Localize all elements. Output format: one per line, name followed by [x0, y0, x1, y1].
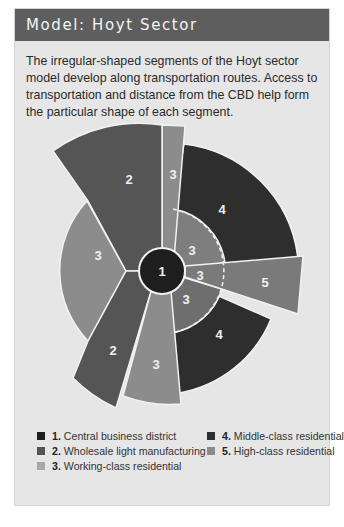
- legend-num-4: 4.: [222, 430, 231, 442]
- label-seg-2-bottom: 2: [109, 343, 116, 358]
- legend-swatch-1: [37, 432, 45, 440]
- label-seg-4-lower: 4: [215, 327, 223, 342]
- legend-label-1: Central business district: [64, 430, 176, 442]
- label-seg-3-inner-middle: 3: [196, 268, 203, 283]
- legend-item-3: 3. Working-class residential: [37, 458, 206, 473]
- label-seg-3-left: 3: [94, 248, 101, 263]
- legend-swatch-3: [37, 462, 45, 470]
- hoyt-sector-panel: Model: Hoyt Sector The irregular-shaped …: [14, 8, 330, 506]
- legend-item-4: 4. Middle-class residential: [207, 428, 344, 443]
- legend-label-3: Working-class residential: [64, 460, 182, 472]
- label-seg-3-inner-upper: 3: [188, 243, 195, 258]
- legend-num-2: 2.: [52, 445, 61, 457]
- legend-num-3: 3.: [52, 460, 61, 472]
- label-seg-2-top: 2: [125, 172, 132, 187]
- legend-column-left: 1. Central business district 2. Wholesal…: [37, 428, 206, 473]
- legend-item-5: 5. High-class residential: [207, 443, 344, 458]
- label-seg-4-upper: 4: [218, 202, 226, 217]
- legend-swatch-4: [207, 432, 215, 440]
- legend-label-2: Wholesale light manufacturing: [64, 445, 206, 457]
- legend-label-5: High-class residential: [234, 445, 335, 457]
- legend-column-right: 4. Middle-class residential 5. High-clas…: [207, 428, 344, 458]
- legend-swatch-5: [207, 447, 215, 455]
- legend-swatch-2: [37, 447, 45, 455]
- legend-item-1: 1. Central business district: [37, 428, 206, 443]
- label-seg-3-bottom: 3: [152, 357, 159, 372]
- legend-label-4: Middle-class residential: [234, 430, 344, 442]
- label-seg-5: 5: [261, 275, 268, 290]
- legend-num-1: 1.: [52, 430, 61, 442]
- label-seg-3-inner-lower: 3: [182, 292, 189, 307]
- legend-num-5: 5.: [222, 445, 231, 457]
- legend-item-2: 2. Wholesale light manufacturing: [37, 443, 206, 458]
- label-center-cbd: 1: [158, 264, 165, 279]
- label-seg-3-strip: 3: [169, 167, 176, 182]
